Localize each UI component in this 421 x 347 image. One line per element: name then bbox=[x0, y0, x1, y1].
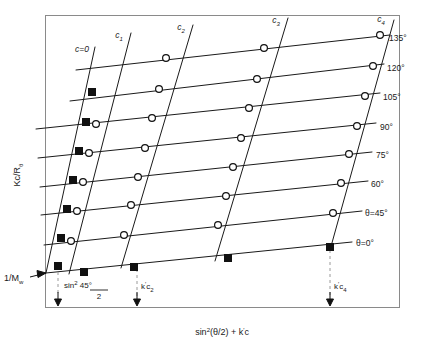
point-open bbox=[135, 174, 142, 181]
point-open bbox=[121, 232, 128, 239]
extrapolated-points-group bbox=[55, 89, 334, 276]
label-angle-60: 60° bbox=[371, 179, 384, 189]
intercept-label-group: 1/Mw bbox=[4, 273, 24, 285]
point-filled bbox=[327, 244, 334, 251]
xtick-label-sin2-denominator: 2 bbox=[97, 292, 102, 301]
y-axis-label: Kc/Rθ bbox=[12, 163, 24, 187]
point-open bbox=[254, 76, 261, 83]
label-angle-135: 135° bbox=[389, 33, 407, 43]
x-axis-label: sin2(θ/2) + k′c bbox=[195, 327, 249, 338]
label-angle-75: 75° bbox=[376, 150, 389, 160]
point-open bbox=[354, 123, 361, 130]
concentration-lines-group bbox=[46, 18, 394, 274]
point-open bbox=[86, 150, 93, 157]
angle-line-0 bbox=[46, 242, 352, 273]
point-filled bbox=[70, 177, 77, 184]
point-filled bbox=[131, 264, 138, 271]
plot-frame bbox=[46, 16, 400, 308]
point-open bbox=[149, 115, 156, 122]
point-open bbox=[330, 210, 337, 217]
xtick-label-kc4: k′c4 bbox=[334, 281, 347, 293]
point-open bbox=[80, 179, 87, 186]
intercept-arrow bbox=[30, 271, 46, 278]
point-open bbox=[163, 55, 170, 62]
point-open bbox=[156, 86, 163, 93]
point-open bbox=[93, 121, 100, 128]
point-open bbox=[261, 45, 268, 52]
point-open bbox=[230, 164, 237, 171]
xtick-label-kc2: k′c2 bbox=[141, 281, 154, 293]
point-open bbox=[74, 208, 81, 215]
concentration-labels-group: c=0 c1 c2 c3 c4 bbox=[75, 14, 385, 54]
point-open bbox=[370, 63, 377, 70]
plot-canvas: c=0 c1 c2 c3 c4 135° 120° 105° 90° 75° 6… bbox=[0, 0, 421, 347]
point-filled bbox=[83, 119, 90, 126]
label-c-one: c1 bbox=[115, 30, 123, 42]
point-filled bbox=[81, 269, 88, 276]
measured-points-group bbox=[68, 32, 384, 245]
angle-line-45 bbox=[44, 211, 362, 245]
intercept-label: 1/Mw bbox=[4, 273, 24, 285]
conc-line-c3 bbox=[215, 18, 288, 261]
point-open bbox=[142, 145, 149, 152]
point-filled bbox=[64, 206, 71, 213]
point-filled bbox=[89, 89, 96, 96]
point-open bbox=[377, 32, 384, 39]
xtick-arrow-kc4 bbox=[327, 292, 334, 306]
angle-line-75 bbox=[40, 152, 372, 187]
xtick-arrow-sin2 bbox=[55, 292, 62, 306]
label-angle-120: 120° bbox=[387, 63, 405, 73]
xtick-label-sin2: sin2 45° bbox=[64, 280, 92, 291]
point-open bbox=[246, 105, 253, 112]
point-open bbox=[215, 222, 222, 229]
point-filled bbox=[225, 255, 232, 262]
angle-line-60 bbox=[41, 181, 368, 215]
y-axis-label-group: Kc/Rθ bbox=[12, 163, 24, 187]
point-filled bbox=[76, 148, 83, 155]
label-angle-105: 105° bbox=[383, 92, 401, 102]
label-angle-90: 90° bbox=[380, 122, 393, 132]
label-c-two: c2 bbox=[177, 22, 185, 34]
label-angle-45: θ=45° bbox=[365, 208, 388, 218]
point-open bbox=[223, 193, 230, 200]
point-open bbox=[238, 135, 245, 142]
point-open bbox=[338, 180, 345, 187]
intercept-arrow-group bbox=[30, 271, 46, 278]
point-filled bbox=[58, 235, 65, 242]
point-open bbox=[128, 202, 135, 209]
point-filled bbox=[55, 263, 62, 270]
xtick-arrow-kc2 bbox=[134, 292, 141, 306]
label-angle-0: θ=0° bbox=[356, 238, 374, 248]
x-axis-label-group: sin2(θ/2) + k′c bbox=[195, 327, 249, 338]
angle-line-120 bbox=[70, 64, 384, 101]
point-open bbox=[362, 93, 369, 100]
point-open bbox=[346, 151, 353, 158]
label-c-three: c3 bbox=[272, 15, 280, 27]
zimm-plot-figure: c=0 c1 c2 c3 c4 135° 120° 105° 90° 75° 6… bbox=[0, 0, 421, 347]
label-c-zero: c=0 bbox=[75, 44, 89, 54]
point-open bbox=[68, 238, 75, 245]
xtick-labels-group: sin2 45° 2 k′c2 k′c4 bbox=[64, 280, 347, 302]
